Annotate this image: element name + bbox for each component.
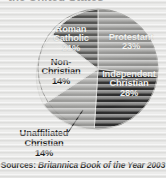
slice-value-independent-christian: 28% bbox=[98, 89, 160, 98]
sources-label: Sources: bbox=[1, 160, 36, 170]
slice-label-unaffiliated-christian: Unaffiliated Christian 14% bbox=[2, 128, 86, 158]
slice-value-roman-catholic: 21% bbox=[44, 44, 98, 53]
slice-label-protestant: Protestant 23% bbox=[104, 33, 158, 52]
slice-label-roman-catholic: Roman Catholic 21% bbox=[44, 25, 98, 53]
chart-title-clipped: the United States bbox=[0, 0, 166, 6]
slice-value-unaffiliated-christian: 14% bbox=[35, 148, 53, 158]
pie-chart-area: Roman Catholic 21% Protestant 23% Indepe… bbox=[0, 0, 166, 158]
slice-value-protestant: 23% bbox=[104, 42, 158, 51]
slice-label-unaffiliated-christian-line2: Christian bbox=[25, 138, 64, 148]
slice-label-non-christian: Non- Christian 14% bbox=[38, 58, 84, 86]
sources-citation: Britannica Book of the Year 2003 bbox=[38, 160, 165, 170]
sources-note: Sources: Britannica Book of the Year 200… bbox=[0, 160, 166, 170]
page-title: the United States bbox=[8, 0, 104, 3]
slice-label-unaffiliated-christian-line1: Unaffiliated bbox=[20, 128, 69, 138]
slice-label-independent-christian: Independent Christian 28% bbox=[98, 70, 160, 98]
slice-value-non-christian: 14% bbox=[38, 77, 84, 86]
slice-label-roman-catholic-line2: Catholic bbox=[53, 33, 88, 43]
slice-label-independent-christian-line2: Christian bbox=[110, 78, 149, 88]
slice-label-non-christian-line2: Christian bbox=[42, 66, 81, 76]
pie-chart-figure: the United States bbox=[0, 0, 166, 178]
